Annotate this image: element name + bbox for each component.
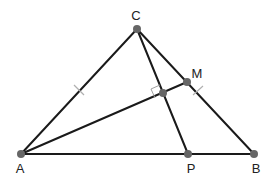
point-P	[184, 150, 192, 158]
point-B	[250, 150, 258, 158]
segment-CB	[137, 29, 254, 154]
point-M	[183, 78, 191, 86]
point-intersection	[159, 89, 167, 97]
label-P: P	[187, 161, 196, 176]
label-M: M	[192, 66, 203, 81]
segment-AC	[21, 29, 137, 154]
point-C	[133, 25, 141, 33]
label-B: B	[252, 161, 261, 176]
label-A: A	[16, 161, 25, 176]
point-A	[17, 150, 25, 158]
label-C: C	[131, 8, 140, 23]
triangle-diagram: C M A P B	[0, 0, 275, 187]
